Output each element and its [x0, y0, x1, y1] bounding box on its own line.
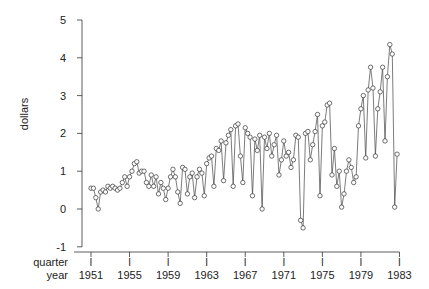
- data-point: [270, 154, 274, 158]
- x-axis-label-quarter: quarter: [33, 256, 68, 268]
- data-point: [221, 178, 225, 182]
- data-point: [380, 65, 384, 69]
- y-tick-label: 3: [60, 90, 66, 102]
- data-point: [151, 184, 155, 188]
- data-point: [373, 154, 377, 158]
- data-point: [159, 180, 163, 184]
- x-tick-quarter: I: [244, 257, 247, 268]
- data-point: [176, 190, 180, 194]
- data-point: [262, 135, 266, 139]
- data-point: [123, 175, 127, 179]
- data-point: [147, 184, 151, 188]
- data-point: [255, 148, 259, 152]
- data-point: [250, 194, 254, 198]
- data-point: [200, 171, 204, 175]
- line-chart: -1012345 I1951I1955I1959I1963I1967I1971I…: [0, 0, 429, 289]
- x-axis: I1951I1955I1959I1963I1967I1971I1975I1979…: [74, 252, 412, 281]
- data-point: [347, 158, 351, 162]
- data-point: [135, 160, 139, 164]
- data-point: [392, 205, 396, 209]
- data-point: [91, 186, 95, 190]
- data-point: [315, 112, 319, 116]
- data-point: [311, 143, 315, 147]
- data-point: [164, 197, 168, 201]
- data-point: [185, 192, 189, 196]
- data-point: [265, 146, 269, 150]
- data-point: [118, 186, 122, 190]
- data-point: [96, 207, 100, 211]
- data-point: [327, 101, 331, 105]
- data-point: [378, 90, 382, 94]
- x-tick-year: 1971: [272, 269, 296, 281]
- data-point: [195, 175, 199, 179]
- data-point: [308, 158, 312, 162]
- x-tick-year: 1955: [117, 269, 141, 281]
- x-tick-quarter: I: [360, 257, 363, 268]
- data-point: [354, 175, 358, 179]
- data-point: [383, 139, 387, 143]
- data-point: [385, 75, 389, 79]
- data-point: [178, 201, 182, 205]
- data-point: [120, 180, 124, 184]
- data-point: [335, 184, 339, 188]
- data-point: [212, 184, 216, 188]
- data-point: [209, 154, 213, 158]
- data-point: [217, 148, 221, 152]
- data-point: [395, 152, 399, 156]
- x-tick-year: 1979: [349, 269, 373, 281]
- data-point: [368, 65, 372, 69]
- series-line: [91, 45, 397, 228]
- data-point: [183, 167, 187, 171]
- data-point: [351, 180, 355, 184]
- data-point: [332, 146, 336, 150]
- data-point: [371, 86, 375, 90]
- x-tick-quarter: I: [90, 257, 93, 268]
- data-point: [236, 122, 240, 126]
- data-point: [171, 167, 175, 171]
- data-point: [306, 129, 310, 133]
- x-tick-quarter: I: [321, 257, 324, 268]
- data-point: [323, 120, 327, 124]
- y-axis: -1012345: [56, 14, 82, 253]
- data-point: [204, 161, 208, 165]
- x-tick-year: 1967: [233, 269, 257, 281]
- data-point: [168, 175, 172, 179]
- data-point: [229, 127, 233, 131]
- x-tick-quarter: I: [205, 257, 208, 268]
- data-point: [238, 154, 242, 158]
- data-point: [166, 186, 170, 190]
- y-tick-label: 5: [60, 14, 66, 26]
- data-point: [243, 126, 247, 130]
- data-point: [248, 135, 252, 139]
- x-tick-year: 1983: [387, 269, 411, 281]
- x-tick-quarter: I: [398, 257, 401, 268]
- data-point: [130, 169, 134, 173]
- data-point: [313, 129, 317, 133]
- data-point: [296, 135, 300, 139]
- x-tick-year: 1951: [79, 269, 103, 281]
- data-point: [190, 171, 194, 175]
- data-point: [231, 184, 235, 188]
- data-point: [272, 143, 276, 147]
- data-point: [279, 158, 283, 162]
- x-tick-quarter: I: [282, 257, 285, 268]
- data-point: [359, 107, 363, 111]
- x-tick-year: 1963: [194, 269, 218, 281]
- y-tick-label: 0: [60, 203, 66, 215]
- data-series: [89, 42, 399, 230]
- data-point: [142, 169, 146, 173]
- data-point: [344, 169, 348, 173]
- data-point: [224, 141, 228, 145]
- data-point: [267, 131, 271, 135]
- data-point: [342, 192, 346, 196]
- x-tick-year: 1959: [156, 269, 180, 281]
- data-point: [390, 52, 394, 56]
- data-point: [349, 165, 353, 169]
- x-tick-quarter: I: [167, 257, 170, 268]
- data-point: [125, 184, 129, 188]
- y-tick-label: 1: [60, 165, 66, 177]
- data-point: [366, 88, 370, 92]
- data-point: [94, 195, 98, 199]
- data-point: [154, 175, 158, 179]
- data-point: [337, 169, 341, 173]
